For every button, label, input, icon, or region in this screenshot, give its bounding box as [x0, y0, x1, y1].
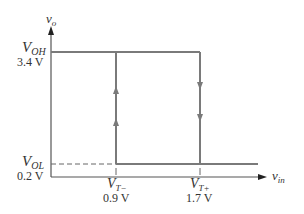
down-arrow-1: [197, 82, 203, 90]
up-arrow-2: [113, 118, 119, 126]
vin-label: vin: [272, 168, 285, 185]
vol-value: 0.2 V: [17, 169, 44, 183]
vtm-value: 0.9 V: [103, 191, 130, 205]
hysteresis-diagram: vo VOH 3.4 V VOL 0.2 V VT− 0.9 V VT+ 1.7…: [0, 0, 304, 214]
x-axis-arrow: [258, 174, 267, 180]
down-arrow-2: [197, 114, 203, 122]
vtp-value: 1.7 V: [186, 191, 213, 205]
up-arrow-1: [113, 86, 119, 94]
vo-label: vo: [46, 11, 57, 28]
voh-value: 3.4 V: [17, 55, 44, 69]
